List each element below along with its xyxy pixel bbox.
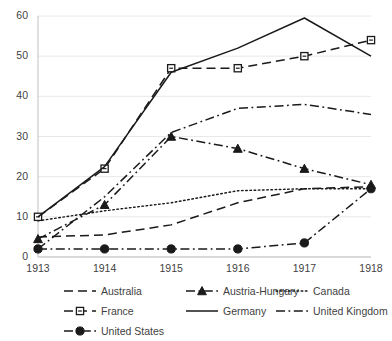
legend-swatch-icon [63, 284, 97, 298]
data-point-marker-circle [300, 239, 308, 247]
data-point-marker-circle [367, 185, 375, 193]
legend-line-sample [63, 324, 97, 338]
legend-swatch-icon [275, 304, 309, 318]
data-point-marker-triangle [34, 235, 43, 243]
y-tick-label: 20 [4, 170, 28, 182]
legend-line-sample [63, 304, 97, 318]
chart-legend: AustraliaAustria-HungaryCanadaFranceGerm… [0, 279, 382, 341]
legend-item-canada[interactable]: Canada [275, 281, 350, 301]
chart-plot-area: 0102030405060 191319141915191619171918 [0, 0, 382, 278]
legend-item-australia[interactable]: Australia [63, 281, 142, 301]
series-line [38, 189, 371, 249]
legend-item-label: Canada [313, 284, 350, 298]
y-tick-label: 50 [4, 49, 28, 61]
data-point-marker-circle [234, 245, 242, 253]
data-point-marker-circle [101, 245, 109, 253]
data-point-marker-circle [34, 245, 42, 253]
legend-swatch-icon [185, 284, 219, 298]
legend-line-sample [185, 304, 219, 318]
series-line [38, 40, 371, 217]
legend-item-united-states[interactable]: United States [63, 321, 164, 341]
series-germany [38, 18, 371, 217]
x-tick-label: 1918 [348, 262, 392, 274]
legend-swatch-icon [185, 304, 219, 318]
y-tick-label: 10 [4, 210, 28, 222]
series-canada [38, 189, 371, 221]
line-chart-canvas [0, 0, 382, 278]
legend-item-label: Germany [223, 304, 266, 318]
legend-line-sample [275, 304, 309, 318]
y-tick-label: 0 [4, 250, 28, 262]
x-tick-label: 1917 [281, 262, 327, 274]
x-tick-label: 1914 [82, 262, 128, 274]
data-point-marker-circle [167, 245, 175, 253]
legend-swatch-icon [63, 324, 97, 338]
legend-item-label: Australia [101, 284, 142, 298]
y-tick-label: 60 [4, 9, 28, 21]
series-line [38, 18, 371, 217]
legend-item-france[interactable]: France [63, 301, 134, 321]
legend-item-label: France [101, 304, 134, 318]
x-tick-label: 1916 [215, 262, 261, 274]
legend-line-sample [185, 284, 219, 298]
data-point-marker-circle [76, 327, 84, 335]
legend-item-united-kingdom[interactable]: United Kingdom [275, 301, 388, 321]
legend-item-label: United Kingdom [313, 304, 388, 318]
series-france [34, 37, 374, 221]
x-tick-label: 1913 [15, 262, 61, 274]
series-line [38, 189, 371, 221]
legend-swatch-icon [275, 284, 309, 298]
legend-item-germany[interactable]: Germany [185, 301, 266, 321]
legend-swatch-icon [63, 304, 97, 318]
legend-line-sample [63, 284, 97, 298]
series-united-states [34, 185, 375, 253]
y-tick-label: 30 [4, 130, 28, 142]
x-tick-label: 1915 [148, 262, 194, 274]
legend-item-label: United States [101, 324, 164, 338]
legend-line-sample [275, 284, 309, 298]
y-tick-label: 40 [4, 89, 28, 101]
